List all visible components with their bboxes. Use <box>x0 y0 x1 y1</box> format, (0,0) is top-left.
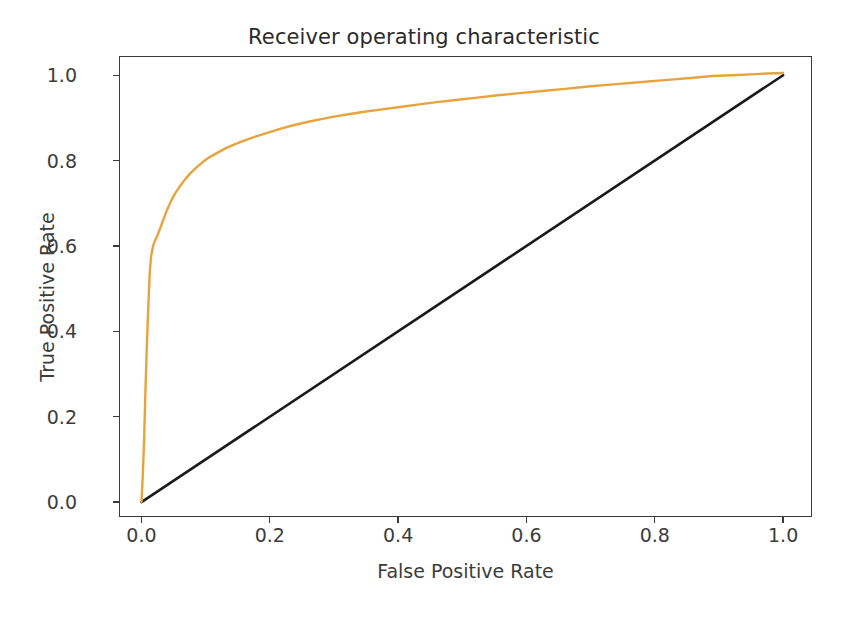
x-tick-mark <box>269 517 270 523</box>
y-tick-mark <box>113 501 119 502</box>
y-axis-label: True Positive Rate <box>36 197 58 397</box>
x-axis-label: False Positive Rate <box>119 560 812 582</box>
y-tick-label: 0.2 <box>47 406 77 428</box>
y-tick-mark <box>113 160 119 161</box>
x-tick-label: 0.8 <box>640 524 670 546</box>
roc-chart-figure: Receiver operating characteristic 0.00.2… <box>0 0 848 619</box>
x-tick-mark <box>526 517 527 523</box>
x-tick-mark <box>141 517 142 523</box>
y-tick-mark <box>113 331 119 332</box>
y-tick-label: 0.0 <box>47 491 77 513</box>
plot-canvas <box>119 56 812 517</box>
x-tick-mark <box>397 517 398 523</box>
x-tick-label: 0.6 <box>511 524 541 546</box>
y-tick-label: 1.0 <box>47 64 77 86</box>
x-tick-label: 0.2 <box>255 524 285 546</box>
plot-area <box>119 56 812 517</box>
x-tick-mark <box>654 517 655 523</box>
y-tick-mark <box>113 245 119 246</box>
x-tick-label: 0.4 <box>383 524 413 546</box>
y-tick-label: 0.8 <box>47 150 77 172</box>
chart-title: Receiver operating characteristic <box>0 25 848 49</box>
y-tick-mark <box>113 416 119 417</box>
x-tick-label: 0.0 <box>126 524 156 546</box>
x-tick-label: 1.0 <box>768 524 798 546</box>
chance-level-line <box>141 75 783 502</box>
y-tick-mark <box>113 75 119 76</box>
x-tick-mark <box>782 517 783 523</box>
